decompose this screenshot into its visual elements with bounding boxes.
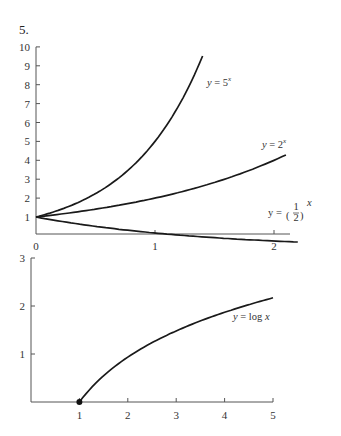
x-tick-label: 4	[222, 409, 228, 421]
right-paren: )	[300, 210, 304, 222]
fraction-denominator: 2	[293, 212, 298, 223]
x-tick-label: 3	[173, 409, 179, 421]
fraction-numerator: 1	[293, 201, 298, 212]
x-tick-label: 1	[77, 409, 83, 421]
y-tick-label: 2	[25, 192, 31, 204]
label-5-pow-x: y = 5x	[206, 75, 232, 88]
label-2-pow-x: y = 2x	[261, 137, 287, 150]
y-tick-label: 9	[25, 60, 31, 72]
y-tick-label: 3	[25, 173, 31, 185]
y-tick-label: 6	[25, 117, 31, 129]
x-tick-label: 1	[152, 240, 158, 252]
point-1-0	[76, 399, 82, 405]
y-tick-label: 3	[20, 252, 26, 264]
y-tick-label: 1	[25, 211, 31, 223]
left-paren: (	[286, 210, 290, 222]
label-half-pow-x: y =(12)x	[268, 197, 312, 223]
y-tick-label: 10	[19, 41, 31, 53]
curve-2-pow-x	[36, 155, 286, 217]
y-tick-label: 4	[25, 154, 31, 166]
label-log-x: y = log x	[232, 311, 270, 322]
exponent: x	[306, 197, 312, 208]
svg-text:y =: y =	[268, 207, 282, 218]
logarithm-chart: 12312345y = log x	[20, 252, 277, 421]
x-tick-label: 5	[270, 409, 276, 421]
y-tick-label: 2	[20, 300, 26, 312]
curve-half-pow-x	[36, 217, 298, 242]
x-tick-label: 0	[33, 240, 39, 252]
y-tick-label: 1	[20, 348, 26, 360]
x-tick-label: 2	[125, 409, 131, 421]
chart-canvas: 12345678910012y = 5xy = 2xy =(12)x 12312…	[0, 0, 341, 436]
exponential-chart: 12345678910012y = 5xy = 2xy =(12)x	[19, 41, 312, 252]
y-tick-label: 5	[25, 135, 31, 147]
y-tick-label: 8	[25, 79, 31, 91]
y-tick-label: 7	[25, 98, 31, 110]
